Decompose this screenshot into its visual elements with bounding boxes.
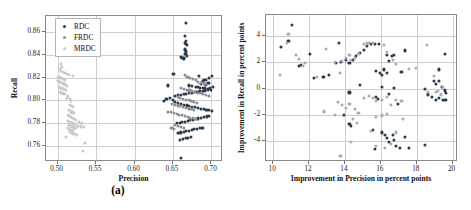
- y-tick: [42, 77, 45, 78]
- scatter-point: [348, 53, 351, 56]
- legend-item[interactable]: RDC: [59, 21, 96, 32]
- x-tick-label: 0.70: [204, 165, 217, 173]
- x-tick-label: 20: [448, 165, 455, 173]
- scatter-point: [400, 99, 403, 102]
- scatter-point: [280, 46, 283, 49]
- scatter-point: [173, 127, 176, 130]
- scatter-point: [339, 155, 342, 158]
- scatter-point: [337, 42, 340, 45]
- scatter-point: [182, 130, 185, 133]
- legend-item[interactable]: MRDC: [59, 43, 96, 54]
- scatter-point: [198, 127, 201, 130]
- scatter-point: [172, 72, 175, 75]
- y-tick-label: 0.84: [27, 50, 40, 58]
- scatter-point: [75, 133, 78, 136]
- scatter-point: [380, 98, 383, 101]
- scatter-point: [190, 128, 193, 131]
- x-tick-label: 0.55: [89, 165, 102, 173]
- scatter-point: [167, 84, 170, 87]
- y-axis-title: Improvement in Recall in percent points: [237, 22, 246, 153]
- gridline-horizontal: [266, 62, 456, 63]
- scatter-point: [373, 147, 376, 150]
- scatter-point: [348, 91, 351, 94]
- gridline-horizontal: [266, 36, 456, 37]
- scatter-point: [375, 115, 378, 118]
- scatter-point: [389, 103, 392, 106]
- scatter-point: [396, 102, 399, 105]
- gridline-vertical: [135, 16, 136, 160]
- scatter-point: [179, 156, 182, 159]
- scatter-point: [188, 129, 191, 132]
- scatter-point: [70, 99, 73, 102]
- scatter-point: [199, 116, 202, 119]
- scatter-point: [427, 93, 430, 96]
- scatter-point: [178, 138, 181, 141]
- scatter-point: [334, 113, 337, 116]
- scatter-point: [404, 136, 407, 139]
- legend-label: MRDC: [70, 44, 96, 53]
- scatter-point: [348, 61, 351, 64]
- scatter-point: [386, 71, 389, 74]
- legend-item[interactable]: FRDC: [59, 32, 96, 43]
- panel-a: RDCFRDCMRDC (a) 0.760.780.800.820.840.86…: [0, 0, 236, 210]
- scatter-point: [393, 53, 396, 56]
- scatter-point: [371, 96, 374, 99]
- scatter-point: [404, 49, 407, 52]
- scatter-point: [348, 103, 351, 106]
- plot-area-b: [265, 14, 457, 161]
- scatter-point: [82, 150, 85, 153]
- scatter-point: [185, 92, 188, 95]
- x-tick: [416, 161, 417, 164]
- scatter-point: [395, 131, 398, 134]
- scatter-point: [207, 94, 210, 97]
- y-tick-label: -2: [254, 110, 260, 118]
- scatter-point: [395, 63, 398, 66]
- scatter-point: [183, 57, 186, 60]
- scatter-point: [298, 57, 301, 60]
- gridline-vertical: [417, 15, 418, 160]
- y-tick-label: 0: [256, 84, 260, 92]
- scatter-point: [400, 71, 403, 74]
- scatter-point: [445, 92, 448, 95]
- scatter-point: [338, 71, 341, 74]
- scatter-point: [184, 22, 187, 25]
- scatter-point: [369, 129, 372, 132]
- scatter-point: [279, 74, 282, 77]
- scatter-point: [308, 52, 311, 55]
- x-tick: [308, 161, 309, 164]
- scatter-point: [353, 56, 356, 59]
- y-tick-label: 0.76: [27, 141, 40, 149]
- scatter-point: [207, 89, 210, 92]
- scatter-point: [425, 44, 428, 47]
- scatter-point: [177, 131, 180, 134]
- scatter-point: [64, 78, 67, 81]
- scatter-point: [391, 134, 394, 137]
- scatter-point: [64, 135, 67, 138]
- gridline-vertical: [173, 16, 174, 160]
- scatter-point: [202, 116, 205, 119]
- x-tick-label: 16: [376, 165, 383, 173]
- scatter-point: [350, 124, 353, 127]
- scatter-point: [439, 93, 442, 96]
- scatter-point: [208, 82, 211, 85]
- y-tick-label: 0.78: [27, 118, 40, 126]
- scatter-point: [303, 61, 306, 64]
- y-tick: [42, 145, 45, 146]
- scatter-point: [438, 68, 441, 71]
- scatter-point: [432, 74, 435, 77]
- scatter-point: [389, 143, 392, 146]
- scatter-point: [66, 84, 69, 87]
- scatter-point: [162, 99, 165, 102]
- scatter-point: [201, 126, 204, 129]
- scatter-point: [64, 88, 67, 91]
- scatter-point: [443, 52, 446, 55]
- scatter-point: [301, 65, 304, 68]
- y-tick: [42, 31, 45, 32]
- scatter-point: [294, 53, 297, 56]
- scatter-point: [362, 97, 365, 100]
- x-tick-label: 0.65: [166, 165, 179, 173]
- scatter-point: [82, 126, 85, 129]
- legend-a[interactable]: RDCFRDCMRDC: [55, 18, 101, 57]
- y-tick-label: 4: [256, 31, 260, 39]
- scatter-point: [323, 110, 326, 113]
